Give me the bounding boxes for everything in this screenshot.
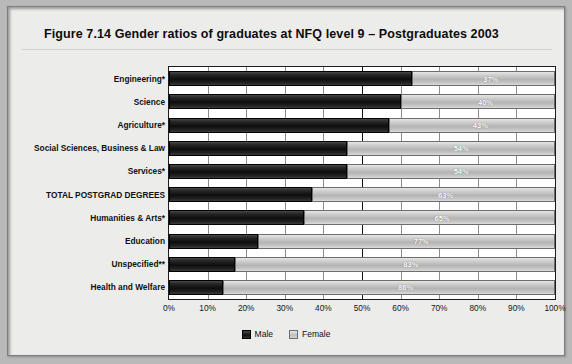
category-axis-labels: Engineering*ScienceAgriculture*Social Sc… — [10, 66, 165, 300]
x-tick-label: 20% — [238, 303, 255, 313]
x-tick-label: 60% — [392, 303, 409, 313]
bar-segment-female — [304, 210, 555, 225]
category-label: Health and Welfare — [13, 282, 165, 292]
x-tick-label: 70% — [431, 303, 448, 313]
category-label: Engineering* — [13, 74, 165, 84]
x-tick-label: 30% — [276, 303, 293, 313]
x-tick-label: 100% — [544, 303, 565, 313]
bar-segment-male — [169, 187, 312, 202]
bar-segment-female — [389, 118, 555, 133]
category-label: Unspecified** — [13, 259, 165, 269]
bar-segment-male — [169, 164, 347, 179]
category-label: Agriculture* — [13, 120, 165, 130]
bar-row: 83% — [169, 257, 555, 272]
plot-area: 37%40%43%54%54%63%65%77%83%86% — [168, 66, 556, 300]
bar-segment-female — [223, 280, 555, 295]
bar-row: 77% — [169, 234, 555, 249]
legend-swatch-male-icon — [242, 330, 251, 339]
bar-segment-male — [169, 141, 347, 156]
bar-segment-male — [169, 280, 223, 295]
x-tick-label: 0% — [163, 303, 175, 313]
bar-row: 63% — [169, 187, 555, 202]
category-label: Education — [13, 236, 165, 246]
legend-item-female: Female — [289, 329, 330, 339]
title-divider — [22, 49, 552, 50]
category-label: Humanities & Arts* — [13, 213, 165, 223]
bar-segment-female — [347, 141, 555, 156]
bar-row: 54% — [169, 141, 555, 156]
category-label: Social Sciences, Business & Law — [13, 143, 165, 153]
bar-segment-female — [412, 71, 555, 86]
bar-segment-male — [169, 118, 389, 133]
legend-label-female: Female — [302, 329, 330, 339]
bar-row: 86% — [169, 280, 555, 295]
bar-row: 65% — [169, 210, 555, 225]
bar-segment-female — [312, 187, 555, 202]
legend-swatch-female-icon — [289, 330, 298, 339]
bar-segment-female — [235, 257, 555, 272]
bar-segment-female — [401, 94, 555, 109]
legend-item-male: Male — [242, 329, 273, 339]
bar-segment-female — [347, 164, 555, 179]
x-tick-label: 50% — [354, 303, 371, 313]
x-tick-label: 10% — [199, 303, 216, 313]
x-tick-label: 80% — [469, 303, 486, 313]
chart-legend: Male Female — [8, 329, 564, 339]
legend-label-male: Male — [255, 329, 273, 339]
x-tick-label: 90% — [508, 303, 525, 313]
bar-row: 37% — [169, 71, 555, 86]
bar-segment-male — [169, 71, 412, 86]
figure-panel: Figure 7.14 Gender ratios of graduates a… — [7, 6, 565, 356]
category-label: Services* — [13, 166, 165, 176]
category-label: TOTAL POSTGRAD DEGREES — [13, 190, 165, 200]
bar-segment-male — [169, 210, 304, 225]
bar-segment-female — [258, 234, 555, 249]
x-tick-label: 40% — [315, 303, 332, 313]
figure-title: Figure 7.14 Gender ratios of graduates a… — [44, 27, 499, 41]
x-axis-tick-labels: 0%10%20%30%40%50%60%70%80%90%100% — [168, 303, 556, 317]
category-label: Science — [13, 97, 165, 107]
bar-segment-male — [169, 257, 235, 272]
bar-row: 40% — [169, 94, 555, 109]
bar-segment-male — [169, 234, 258, 249]
bar-row: 54% — [169, 164, 555, 179]
bar-segment-male — [169, 94, 401, 109]
bar-row: 43% — [169, 118, 555, 133]
